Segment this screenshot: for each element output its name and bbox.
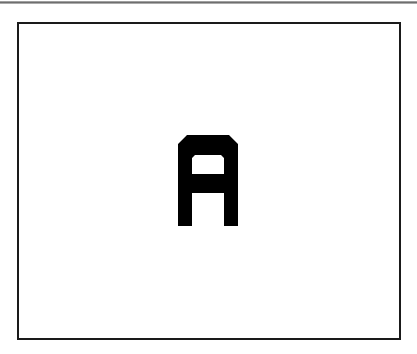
letter-a-glyph xyxy=(178,135,238,226)
top-divider xyxy=(0,1,417,4)
